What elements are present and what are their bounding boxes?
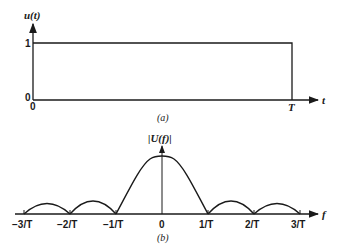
side-lobe-neg-2 xyxy=(24,204,70,215)
pulse-waveform xyxy=(33,43,292,100)
f-tick-pos3: 3/T xyxy=(291,219,305,230)
side-lobe-neg-1 xyxy=(70,201,116,214)
f-tick-neg2: −2/T xyxy=(57,219,77,230)
f-tick-0: 0 xyxy=(159,219,165,230)
pulse-plot: u(t) 1 0 0 T t (a) xyxy=(24,9,326,124)
x-tick-T: T xyxy=(288,101,296,113)
side-lobe-pos-2 xyxy=(254,204,300,215)
spectrum-plot: |U(f)| −3/T −2/T −1/T 0 1/T 2/T 3/T f (b… xyxy=(12,132,327,244)
U-axis-label: |U(f)| xyxy=(148,132,172,145)
u-axis-label: u(t) xyxy=(24,9,41,22)
f-tick-pos1: 1/T xyxy=(199,219,213,230)
x-tick-origin: 0 xyxy=(30,101,36,112)
y-tick-1: 1 xyxy=(25,38,31,49)
caption-b: (b) xyxy=(157,232,169,244)
f-tick-neg3: −3/T xyxy=(12,219,32,230)
t-axis-label: t xyxy=(322,94,326,106)
f-tick-pos2: 2/T xyxy=(245,219,259,230)
side-lobe-pos-1 xyxy=(208,201,254,214)
figure-canvas: u(t) 1 0 0 T t (a) |U(f)| −3/T −2/T −1/T xyxy=(0,0,344,252)
caption-a: (a) xyxy=(157,112,169,124)
f-axis-label: f xyxy=(322,208,327,220)
f-tick-neg1: −1/T xyxy=(103,219,123,230)
